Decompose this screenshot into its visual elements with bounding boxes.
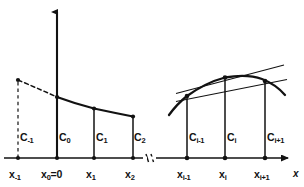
left-curve-dashed xyxy=(18,80,57,97)
figure-container: C-1 C0 C1 C2 x-1 x0=0 x1 x2 Ci-1 Ci Ci+1… xyxy=(0,0,304,187)
label-x1: x1 xyxy=(86,169,96,182)
node-ci-plus1 xyxy=(263,79,268,84)
label-c-minus1: C-1 xyxy=(20,132,33,145)
node-ci-minus1 xyxy=(185,94,190,99)
label-x2: x2 xyxy=(125,169,135,182)
label-xi-plus1: xi+1 xyxy=(254,169,269,182)
node-c1 xyxy=(92,106,96,110)
node-c0 xyxy=(55,95,59,99)
label-c1: C1 xyxy=(96,132,107,145)
node-c-minus1 xyxy=(16,78,20,82)
label-ci-plus1: Ci+1 xyxy=(267,132,284,145)
label-x0: x0=0 xyxy=(41,169,62,182)
figure-drawing xyxy=(0,0,304,187)
tick-dot-x-minus1 xyxy=(16,156,20,160)
tick-dot-x0 xyxy=(55,156,59,160)
tangent-line-at-ci xyxy=(176,65,284,94)
tick-dot-xi xyxy=(223,156,228,161)
node-c2 xyxy=(131,114,135,118)
label-c2: C2 xyxy=(134,132,145,145)
label-x-minus1: x-1 xyxy=(9,169,21,182)
label-ci: Ci xyxy=(227,132,236,145)
tick-dot-xi-plus1 xyxy=(263,156,268,161)
tick-dot-x1 xyxy=(92,156,96,160)
tick-dot-x2 xyxy=(131,156,135,160)
label-xi: xi xyxy=(219,169,226,182)
label-xi-minus1: xi-1 xyxy=(177,169,191,182)
label-axis-x: x xyxy=(293,169,299,179)
label-c0: C0 xyxy=(59,132,70,145)
right-panel-group xyxy=(156,65,288,160)
label-ci-minus1: Ci-1 xyxy=(189,132,204,145)
secant-chord-line xyxy=(176,80,287,102)
tick-dot-xi-minus1 xyxy=(185,156,190,161)
axis-break-marker-icon xyxy=(143,154,154,162)
node-ci xyxy=(223,75,228,80)
